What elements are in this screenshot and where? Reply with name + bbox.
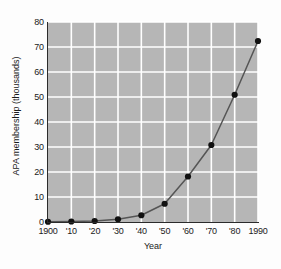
y-axis-tick-label: 20	[2, 168, 44, 177]
data-point-marker	[138, 212, 144, 218]
data-point-marker	[162, 201, 168, 207]
x-axis-tick-label: '50	[159, 227, 170, 236]
data-point-marker	[232, 92, 238, 98]
plot-area	[48, 22, 258, 222]
x-axis-tick-label: '60	[182, 227, 193, 236]
data-point-marker	[255, 38, 261, 44]
data-series-line	[48, 22, 258, 222]
y-axis-tick-label: 60	[2, 68, 44, 77]
y-axis-line	[47, 22, 48, 223]
x-axis-tick-label: '80	[229, 227, 240, 236]
x-axis-tick-label: '30	[112, 227, 123, 236]
series-polyline	[48, 41, 258, 222]
y-axis-tick-label: 80	[2, 18, 44, 27]
y-axis-tick-label: 40	[2, 118, 44, 127]
y-axis-tick-label: 30	[2, 143, 44, 152]
chart-figure: APA membership (thousands) 0102030405060…	[0, 0, 281, 269]
y-axis-tick-label: 10	[2, 193, 44, 202]
x-axis-tick-label: 1900	[38, 227, 57, 236]
y-axis-tick-label: 50	[2, 93, 44, 102]
x-axis-title: Year	[48, 241, 258, 251]
x-axis-tick-label: '10	[66, 227, 77, 236]
x-axis-tick-label: '40	[136, 227, 147, 236]
data-point-marker	[185, 173, 191, 179]
x-axis-tick-label: '20	[89, 227, 100, 236]
data-point-marker	[208, 142, 214, 148]
y-axis-tick-label: 70	[2, 43, 44, 52]
data-point-marker	[92, 218, 98, 224]
x-axis-tick-labels: 1900'10'20'30'40'50'60'70'801990	[0, 227, 281, 241]
x-axis-tick-label: '70	[206, 227, 217, 236]
x-axis-line	[47, 222, 259, 223]
x-axis-tick-label: 1990	[248, 227, 267, 236]
